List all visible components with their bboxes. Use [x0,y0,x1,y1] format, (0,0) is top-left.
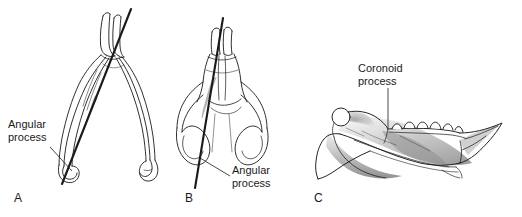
panel-a-illustration [0,0,175,217]
callout-b-line1: Angular [232,164,271,177]
leader-line-b [200,158,230,176]
angle-reference-line-a [62,9,131,184]
anatomical-figure: Angular process Angular process Coronoid… [0,0,522,217]
angle-reference-line-b [195,18,223,188]
mandible-shading-c [326,111,500,178]
callout-angular-process-a: Angular process [8,118,47,144]
panel-letter-b: B [185,192,193,204]
panel-c-illustration [310,0,522,217]
callout-coronoid-process-c: Coronoid process [358,62,403,88]
panel-letter-c: C [314,192,323,204]
panel-a [0,0,175,217]
callout-angular-process-b: Angular process [232,164,271,190]
leader-line-a [50,147,72,171]
callout-c-line1: Coronoid [358,62,403,75]
mandible-outline-b [176,27,268,165]
callout-a-line1: Angular [8,118,47,131]
callout-a-line2: process [8,131,47,144]
panel-letter-a: A [14,192,22,204]
callout-c-line2: process [358,75,403,88]
callout-b-line2: process [232,177,271,190]
panel-c [310,0,522,217]
